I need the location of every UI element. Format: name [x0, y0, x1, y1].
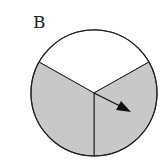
- spinner: [0, 0, 163, 165]
